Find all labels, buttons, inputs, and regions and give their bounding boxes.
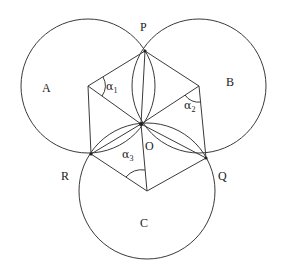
segment-o-r bbox=[91, 124, 141, 154]
label-q: Q bbox=[218, 169, 227, 183]
angle-arc-alpha1 bbox=[102, 77, 105, 96]
point-r-dot bbox=[89, 152, 92, 155]
label-alpha1: α1 bbox=[106, 80, 117, 95]
point-o-dot bbox=[139, 122, 143, 126]
segment-b-q bbox=[199, 86, 206, 158]
label-alpha3: α3 bbox=[122, 148, 133, 163]
segment-o-c bbox=[141, 124, 147, 191]
geometry-diagram: P Q R O A B C α1 α2 α3 bbox=[0, 0, 284, 274]
label-r: R bbox=[61, 169, 69, 183]
label-circle-b: B bbox=[226, 75, 234, 89]
segment-o-p bbox=[141, 51, 145, 124]
point-q-dot bbox=[204, 156, 207, 159]
segment-q-c bbox=[147, 158, 206, 191]
label-o: O bbox=[145, 139, 154, 153]
label-circle-a: A bbox=[42, 81, 51, 95]
segment-a-p bbox=[88, 51, 145, 86]
angle-arc-alpha3 bbox=[126, 170, 145, 177]
label-p: P bbox=[140, 20, 147, 34]
point-p-dot bbox=[143, 49, 146, 52]
segment-c-r bbox=[91, 154, 147, 191]
label-circle-c: C bbox=[140, 216, 148, 230]
segment-r-a bbox=[88, 86, 91, 154]
